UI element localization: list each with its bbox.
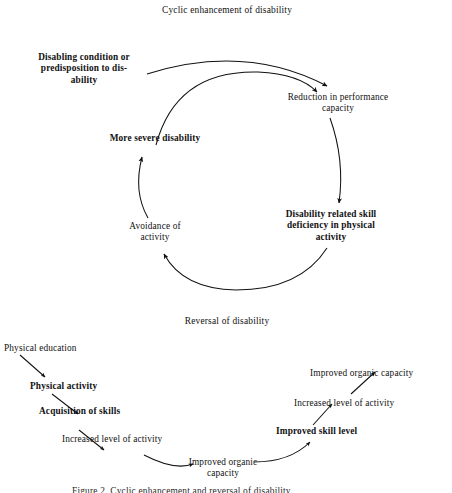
node-improved-organic-capacity-mid: Improved organic capacity xyxy=(168,457,278,480)
node-skill-deficiency: Disability related skill deficiency in p… xyxy=(261,209,401,243)
cyclic-diagram-title: Cyclic enhancement of disability xyxy=(162,5,292,15)
figure-caption: Figure 2. Cyclic enhancement and reversa… xyxy=(72,486,392,493)
node-disabling-condition: Disabling condition or predisposition to… xyxy=(9,52,159,86)
arrow-skill-deficiency-to-avoidance xyxy=(164,248,327,290)
node-acquisition-of-skills: Acquisition of skills xyxy=(39,406,120,417)
arrow-disabling-condition-to-reduction xyxy=(147,61,327,86)
node-improved-skill-level: Improved skill level xyxy=(276,426,357,437)
node-increased-level-activity-right: Increased level of activity xyxy=(294,398,394,409)
arrow-avoidance-to-more-severe xyxy=(139,157,148,218)
node-improved-organic-capacity-top: Improved organic capacity xyxy=(310,368,413,379)
arrow-education-to-activity xyxy=(20,355,45,377)
node-physical-activity: Physical activity xyxy=(30,381,97,392)
node-more-severe-disability: More severe disability xyxy=(80,133,230,144)
node-reduction-performance: Reduction in performance capacity xyxy=(253,92,423,115)
node-avoidance-activity: Avoidance of activity xyxy=(100,221,210,244)
figure-page: Cyclic enhancement of disability Disabli… xyxy=(0,0,452,493)
reversal-diagram-title: Reversal of disability xyxy=(185,316,270,326)
node-increased-level-activity-left: Increased level of activity xyxy=(62,434,162,445)
node-physical-education: Physical education xyxy=(4,343,77,354)
arrow-reduction-to-skill-deficiency xyxy=(330,118,341,203)
